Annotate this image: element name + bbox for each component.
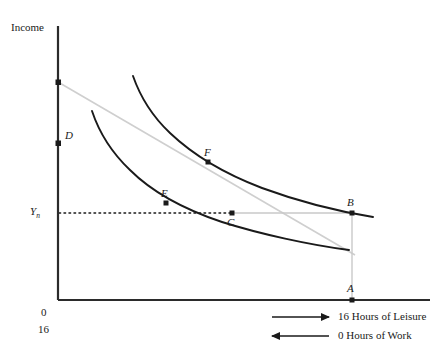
point-label-b: B	[347, 197, 354, 208]
point-label-a: A	[347, 283, 354, 294]
point-marker-d	[56, 141, 62, 147]
point-marker-e	[164, 201, 169, 206]
diagram-canvas	[0, 0, 440, 351]
point-marker-f	[206, 160, 211, 165]
budget-line	[58, 82, 355, 255]
legend-label-leisure: 16 Hours of Leisure	[338, 311, 426, 322]
y-marker-label: Yn	[30, 206, 40, 220]
point-label-e: E	[161, 188, 168, 199]
point-marker-b	[350, 211, 355, 216]
y-marker-subscript: n	[36, 211, 40, 220]
point-label-d: D	[65, 130, 73, 141]
y-axis-title: Income	[11, 22, 44, 33]
legend-label-work: 0 Hours of Work	[338, 330, 412, 341]
point-marker-a	[350, 298, 355, 303]
point-label-f: F	[204, 147, 211, 158]
origin-sub-label: 16	[38, 324, 49, 335]
labor-leisure-indifference-diagram: Income Yn 0 16 A B C D E F 16 Hours of L…	[0, 0, 440, 351]
point-marker-budget-intercept	[56, 80, 62, 86]
point-label-c: C	[227, 217, 234, 228]
point-marker-c	[230, 211, 235, 216]
origin-label: 0	[41, 307, 47, 318]
